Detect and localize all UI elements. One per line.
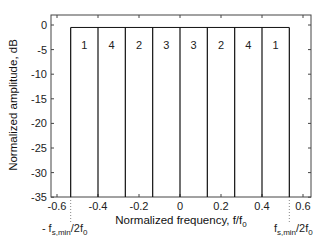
band-label: 2 <box>136 39 142 51</box>
y-axis-title: Normalized amplitude, dB <box>7 39 19 171</box>
fs-min-label: - fs,min/2f0 <box>42 222 88 237</box>
x-axis-title: Normalized frequency, f/f0 <box>115 214 247 229</box>
spectrum-bands: 14233241 <box>71 27 290 197</box>
y-tick-label: -15 <box>31 93 47 105</box>
band-label: 4 <box>245 39 251 51</box>
x-tick-label: -0.2 <box>130 200 149 212</box>
band-label: 2 <box>218 39 224 51</box>
x-tick-label: 0.2 <box>213 200 228 212</box>
band-label: 1 <box>273 39 279 51</box>
band-label: 3 <box>191 39 197 51</box>
band-label: 1 <box>81 39 87 51</box>
y-tick-label: -10 <box>31 68 47 80</box>
fs-min-label: fs,min/2f0 <box>274 222 313 237</box>
band-label: 3 <box>163 39 169 51</box>
y-tick-label: -35 <box>31 191 47 203</box>
x-tick-label: -0.6 <box>48 200 67 212</box>
y-tick-label: 0 <box>41 19 47 31</box>
y-tick-label: -30 <box>31 167 47 179</box>
amplitude-spectrum-chart: 0-5-10-15-20-25-30-35 -0.6-0.4-0.200.20.… <box>0 0 327 251</box>
y-axis-ticks: 0-5-10-15-20-25-30-35 <box>31 19 311 203</box>
band-label: 4 <box>109 39 115 51</box>
y-tick-label: -20 <box>31 117 47 129</box>
x-tick-label: 0 <box>177 200 183 212</box>
x-tick-label: 0.6 <box>295 200 310 212</box>
x-tick-label: -0.4 <box>89 200 108 212</box>
x-tick-label: 0.4 <box>254 200 269 212</box>
y-tick-label: -5 <box>37 44 47 56</box>
y-tick-label: -25 <box>31 142 47 154</box>
